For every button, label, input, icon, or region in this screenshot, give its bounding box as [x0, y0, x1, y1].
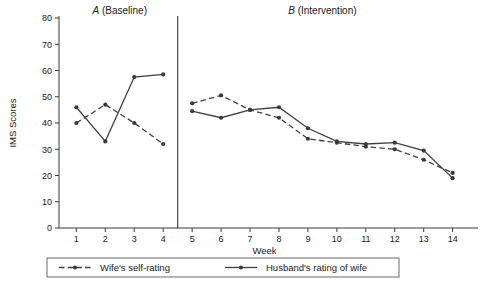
x-tick-label: 8 — [276, 234, 281, 244]
y-axis-title: IMS Scores — [7, 98, 18, 147]
data-point — [422, 148, 426, 152]
series-line-1-phase-a — [76, 74, 163, 141]
data-point — [248, 108, 252, 112]
y-tick-label: 50 — [42, 92, 52, 102]
x-tick-label: 2 — [103, 234, 108, 244]
x-tick-label: 7 — [248, 234, 253, 244]
data-point — [132, 75, 136, 79]
y-tick-label: 20 — [42, 171, 52, 181]
data-point — [277, 105, 281, 109]
data-point — [190, 101, 194, 105]
phase-caption: (Baseline) — [99, 5, 147, 16]
data-point — [74, 121, 78, 125]
y-tick-label: 40 — [42, 118, 52, 128]
x-tick-label: 4 — [161, 234, 166, 244]
x-tick-label: 13 — [419, 234, 429, 244]
data-point — [306, 126, 310, 130]
data-point — [219, 93, 223, 97]
y-tick-label: 70 — [42, 40, 52, 50]
x-tick-label: 14 — [448, 234, 458, 244]
x-axis-title: Week — [252, 245, 276, 256]
x-tick-label: 9 — [305, 234, 310, 244]
y-tick-label: 0 — [47, 223, 52, 233]
data-point — [74, 105, 78, 109]
y-tick-label: 10 — [42, 197, 52, 207]
data-point — [364, 142, 368, 146]
data-point — [393, 147, 397, 151]
x-tick-label: 6 — [219, 234, 224, 244]
series-line-1-phase-b — [192, 107, 452, 178]
data-point — [161, 142, 165, 146]
data-point — [103, 139, 107, 143]
data-point — [132, 121, 136, 125]
phase-label-a: A (Baseline) — [92, 5, 147, 16]
x-tick-label: 3 — [132, 234, 137, 244]
ims-scores-chart: 010203040506070801234567891011121314Week… — [0, 0, 504, 284]
data-point — [219, 116, 223, 120]
data-point — [277, 116, 281, 120]
data-point — [451, 176, 455, 180]
legend-marker-1 — [239, 265, 243, 269]
phase-caption: (Intervention) — [295, 5, 357, 16]
x-tick-label: 1 — [74, 234, 79, 244]
x-tick-label: 11 — [361, 234, 370, 244]
data-point — [103, 103, 107, 107]
y-tick-label: 80 — [42, 13, 52, 23]
y-tick-label: 60 — [42, 66, 52, 76]
data-point — [306, 137, 310, 141]
legend-label-0: Wife's self-rating — [100, 262, 170, 273]
data-point — [161, 72, 165, 76]
y-tick-label: 30 — [42, 145, 52, 155]
data-point — [393, 141, 397, 145]
x-tick-label: 12 — [390, 234, 400, 244]
data-point — [422, 158, 426, 162]
legend-marker-0 — [73, 265, 77, 269]
legend-label-1: Husband's rating of wife — [266, 262, 367, 273]
x-tick-label: 10 — [332, 234, 342, 244]
x-tick-label: 5 — [190, 234, 195, 244]
phase-label-b: B (Intervention) — [288, 5, 356, 16]
data-point — [190, 109, 194, 113]
data-point — [335, 139, 339, 143]
data-point — [451, 171, 455, 175]
